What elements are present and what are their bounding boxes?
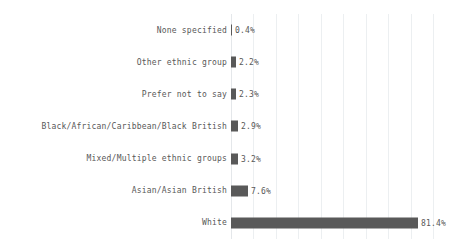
category-label: Other ethnic group xyxy=(137,57,227,68)
bar-value-label: 2.3% xyxy=(239,89,259,100)
bar-row: None specified0.4% xyxy=(231,14,433,46)
bar-value-label: 3.2% xyxy=(241,153,261,164)
bar-row: Black/African/Caribbean/Black British2.9… xyxy=(231,110,433,142)
category-label: Prefer not to say xyxy=(142,89,227,100)
bar-row: Prefer not to say2.3% xyxy=(231,78,433,110)
bar-chart: None specified0.4%Other ethnic group2.2%… xyxy=(0,0,463,244)
bar-value-label: 2.2% xyxy=(239,57,259,68)
bar xyxy=(231,57,236,68)
bar-row: Other ethnic group2.2% xyxy=(231,46,433,78)
bar xyxy=(231,217,418,228)
bar-row: Asian/Asian British7.6% xyxy=(231,175,433,207)
bar xyxy=(231,153,238,164)
bar-value-label: 7.6% xyxy=(251,185,271,196)
plot-area: None specified0.4%Other ethnic group2.2%… xyxy=(231,14,433,239)
category-label: Mixed/Multiple ethnic groups xyxy=(87,153,227,164)
gridline xyxy=(433,14,434,239)
category-label: Asian/Asian British xyxy=(132,185,227,196)
category-label: None specified xyxy=(157,25,227,36)
bar-row: Mixed/Multiple ethnic groups3.2% xyxy=(231,143,433,175)
bar-row: White81.4% xyxy=(231,207,433,239)
bar-value-label: 2.9% xyxy=(241,121,261,132)
bar xyxy=(231,25,232,36)
bar-value-label: 81.4% xyxy=(421,217,446,228)
category-label: Black/African/Caribbean/Black British xyxy=(41,121,227,132)
bar xyxy=(231,89,236,100)
bar xyxy=(231,185,248,196)
category-label: White xyxy=(202,217,227,228)
bar xyxy=(231,121,238,132)
bar-value-label: 0.4% xyxy=(235,25,255,36)
